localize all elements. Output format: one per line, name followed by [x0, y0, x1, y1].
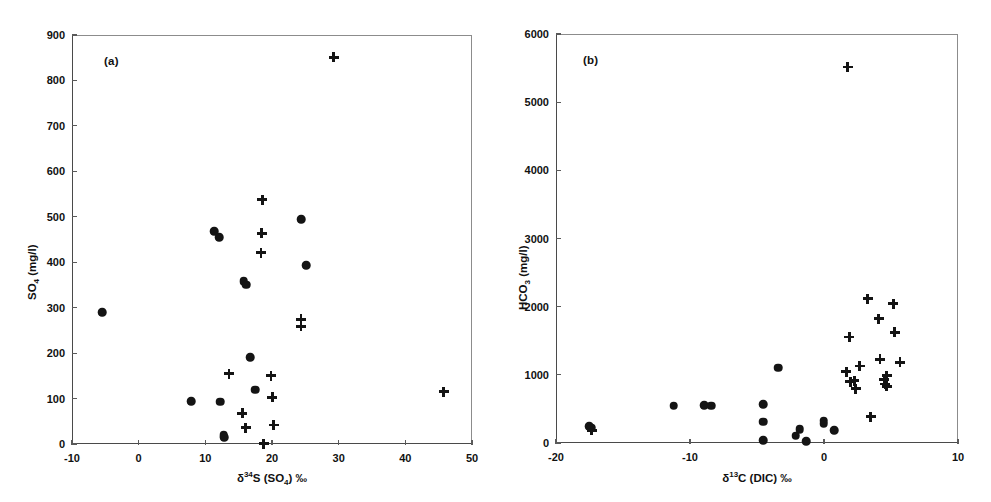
- data-point-cross: [587, 425, 597, 435]
- data-point-cross: [259, 439, 269, 449]
- y-tick-mark: [556, 102, 561, 103]
- y-axis-title-a: SO4 (mg/l): [26, 244, 41, 300]
- x-tick-label: 40: [399, 452, 411, 464]
- panel-a: (a) 0100200300400500600700800900 -100102…: [0, 0, 496, 502]
- data-point-cross: [257, 195, 267, 205]
- data-point-cross: [882, 381, 892, 391]
- y-tick-label: 0: [543, 437, 549, 449]
- data-point-circle: [246, 353, 255, 362]
- y-tick-mark: [556, 374, 561, 375]
- x-axis-title-a: δ34S (SO4) ‰: [237, 470, 307, 487]
- data-point-cross: [888, 299, 898, 309]
- data-point-circle: [819, 417, 828, 426]
- data-point-circle: [297, 215, 306, 224]
- data-point-circle: [700, 401, 709, 410]
- data-point-circle: [210, 227, 219, 236]
- x-tick-mark: [405, 440, 406, 445]
- y-tick-label: 1000: [525, 369, 549, 381]
- data-markers-a: [73, 36, 471, 443]
- data-point-circle: [819, 419, 828, 428]
- x-tick-mark: [957, 439, 958, 444]
- y-tick-label: 400: [47, 256, 65, 268]
- y-tick-mark: [556, 442, 561, 443]
- y-tick-mark: [72, 80, 77, 81]
- x-axis-title-b: δ13C (DIC) ‰: [722, 470, 792, 484]
- y-tick-label: 6000: [525, 28, 549, 40]
- data-point-cross: [851, 384, 861, 394]
- data-point-circle: [759, 417, 768, 426]
- data-point-circle: [707, 401, 716, 410]
- x-tick-mark: [471, 440, 472, 445]
- x-tick-mark: [689, 439, 690, 444]
- x-tick-label: -10: [64, 452, 80, 464]
- data-point-circle: [795, 425, 804, 434]
- data-point-cross: [241, 423, 251, 433]
- data-point-cross: [224, 369, 234, 379]
- panel-label-b: (b): [583, 54, 598, 66]
- data-point-circle: [187, 397, 196, 406]
- y-tick-label: 0: [59, 438, 65, 450]
- data-point-cross: [439, 387, 449, 397]
- y-tick-label: 300: [47, 302, 65, 314]
- x-tick-label: 0: [136, 452, 142, 464]
- data-point-circle: [791, 432, 800, 441]
- data-point-circle: [588, 423, 597, 432]
- x-tick-mark: [823, 439, 824, 444]
- data-point-cross: [880, 379, 890, 389]
- data-point-circle: [239, 277, 248, 286]
- y-tick-label: 900: [47, 29, 65, 41]
- y-tick-mark: [72, 443, 77, 444]
- data-point-cross: [267, 392, 277, 402]
- y-tick-mark: [72, 353, 77, 354]
- y-tick-mark: [72, 262, 77, 263]
- y-tick-mark: [72, 216, 77, 217]
- x-tick-label: -10: [682, 451, 698, 463]
- y-tick-mark: [72, 171, 77, 172]
- y-tick-label: 500: [47, 211, 65, 223]
- y-tick-mark: [556, 306, 561, 307]
- x-tick-label: 30: [333, 452, 345, 464]
- y-tick-mark: [72, 34, 77, 35]
- x-tick-label: 0: [821, 451, 827, 463]
- data-point-circle: [219, 431, 228, 440]
- data-point-cross: [841, 367, 851, 377]
- y-tick-label: 800: [47, 74, 65, 86]
- x-tick-mark: [138, 440, 139, 445]
- y-tick-mark: [556, 238, 561, 239]
- data-point-cross: [844, 332, 854, 342]
- data-point-cross: [296, 314, 306, 324]
- data-point-cross: [890, 327, 900, 337]
- y-tick-mark: [556, 33, 561, 34]
- data-point-circle: [242, 280, 251, 289]
- x-tick-mark: [555, 439, 556, 444]
- y-tick-label: 3000: [525, 233, 549, 245]
- x-tick-label: 50: [466, 452, 478, 464]
- data-point-circle: [220, 433, 229, 442]
- data-point-cross: [256, 248, 266, 258]
- data-point-cross: [849, 376, 859, 386]
- panel-label-a: (a): [104, 55, 119, 67]
- panel-b: (b) 0100020003000400050006000 -20-10010 …: [495, 0, 991, 502]
- y-tick-label: 4000: [525, 164, 549, 176]
- y-axis-title-b: HCO3 (mg/l): [517, 245, 532, 310]
- data-point-cross: [863, 294, 873, 304]
- data-point-circle: [759, 436, 768, 445]
- data-point-circle: [585, 422, 594, 431]
- plot-area-b: [556, 34, 958, 443]
- data-point-cross: [257, 228, 267, 238]
- x-tick-mark: [271, 440, 272, 445]
- y-tick-mark: [72, 307, 77, 308]
- data-point-circle: [302, 261, 311, 270]
- x-tick-mark: [338, 440, 339, 445]
- data-point-cross: [296, 321, 306, 331]
- x-tick-label: 10: [199, 452, 211, 464]
- y-tick-label: 5000: [525, 96, 549, 108]
- data-point-cross: [237, 408, 247, 418]
- data-point-circle: [774, 363, 783, 372]
- x-axis-title-a-text: δ34S (SO4) ‰: [237, 472, 307, 484]
- data-point-circle: [830, 426, 839, 435]
- x-tick-mark: [71, 440, 72, 445]
- data-point-cross: [882, 371, 892, 381]
- data-point-cross: [875, 354, 885, 364]
- data-point-cross: [266, 371, 276, 381]
